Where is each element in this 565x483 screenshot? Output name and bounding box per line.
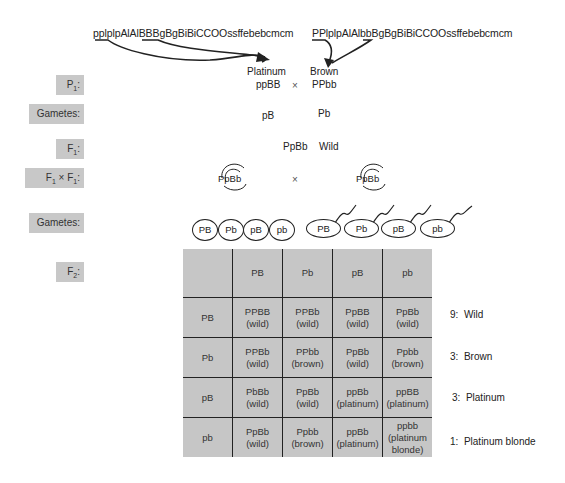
stage-label-gametes-1: Gametes: bbox=[29, 104, 84, 124]
row-header: pb bbox=[183, 418, 233, 458]
left-arrow-b bbox=[142, 40, 265, 62]
table-row: PB PPBB(wild) PPBb(wild) PpBB(wild) PpBb… bbox=[183, 298, 432, 338]
sperm-gamete: PB bbox=[306, 219, 341, 238]
punnett-cell: Ppbb(brown) bbox=[283, 418, 333, 458]
right-arrow-b bbox=[332, 40, 371, 63]
egg-gamete: PB bbox=[192, 219, 218, 241]
column-header: PB bbox=[233, 249, 283, 298]
header-row: PB Pb pB pb bbox=[183, 249, 432, 298]
f1-cross-right: PpBb bbox=[356, 173, 379, 184]
sperm-gamete: Pb bbox=[344, 219, 379, 238]
ratio-wild: 9: Wild bbox=[450, 309, 483, 320]
p1-left-phenotype: Platinum bbox=[247, 66, 286, 77]
stage-label-f1: F1: bbox=[56, 139, 84, 159]
punnett-cell: PbBb(wild) bbox=[233, 378, 283, 418]
egg-gamete: pB bbox=[243, 219, 269, 241]
f1-phenotype: Wild bbox=[319, 141, 338, 152]
punnett-cell: PPBb(wild) bbox=[233, 338, 283, 378]
corner-cell bbox=[183, 249, 233, 298]
egg-gamete: pb bbox=[269, 219, 295, 241]
gamete-1-right: Pb bbox=[318, 108, 330, 119]
punnett-square: PB Pb pB pb PB PPBB(wild) PPBb(wild) PpB… bbox=[183, 249, 432, 457]
stage-label-gametes-2: Gametes: bbox=[29, 213, 84, 233]
right-arrow-p bbox=[312, 40, 331, 62]
column-header: pb bbox=[383, 249, 433, 298]
punnett-cell: ppBb(platinum) bbox=[333, 418, 383, 458]
punnett-cell: ppbb(platinumblonde) bbox=[383, 418, 433, 458]
left-arrow-p bbox=[95, 40, 265, 60]
p1-left-genotype: ppBB bbox=[256, 79, 280, 90]
ratio-brown: 3: Brown bbox=[450, 351, 492, 362]
row-header: Pb bbox=[183, 338, 233, 378]
f1-cross-left: PpBb bbox=[218, 173, 241, 184]
ratio-platinum-blonde: 1: Platinum blonde bbox=[450, 436, 536, 447]
table-row: Pb PPBb(wild) PPbb(brown) PpBb(wild) Ppb… bbox=[183, 338, 432, 378]
stage-label-p1: P1: bbox=[56, 75, 84, 95]
ratio-platinum: 3: Platinum bbox=[452, 392, 505, 403]
punnett-cell: PpBB(wild) bbox=[333, 298, 383, 338]
gamete-1-left: pB bbox=[262, 110, 274, 121]
punnett-cell: ppBB(platinum) bbox=[383, 378, 433, 418]
row-header: PB bbox=[183, 298, 233, 338]
p1-right-genotype: PPbb bbox=[312, 79, 336, 90]
column-header: pB bbox=[333, 249, 383, 298]
stage-label-f2: F2: bbox=[56, 262, 84, 282]
stage-label-f1-cross: F1 × F1: bbox=[25, 168, 84, 188]
table-row: pB PbBb(wild) PpBb(wild) ppBb(platinum) … bbox=[183, 378, 432, 418]
punnett-cell: PpBb(wild) bbox=[283, 378, 333, 418]
sperm-gamete: pB bbox=[381, 219, 416, 238]
punnett-cell: PpBb(wild) bbox=[383, 298, 433, 338]
punnett-cell: Ppbb(brown) bbox=[383, 338, 433, 378]
punnett-cell: PpBb(wild) bbox=[333, 338, 383, 378]
row-header: pB bbox=[183, 378, 233, 418]
punnett-cell: ppBb(platinum) bbox=[333, 378, 383, 418]
punnett-cell: PPBB(wild) bbox=[233, 298, 283, 338]
column-header: Pb bbox=[283, 249, 333, 298]
p1-right-phenotype: Brown bbox=[310, 66, 338, 77]
punnett-cell: PpBb(wild) bbox=[233, 418, 283, 458]
punnett-cell: PPBb(wild) bbox=[283, 298, 333, 338]
table-row: pb PpBb(wild) Ppbb(brown) ppBb(platinum)… bbox=[183, 418, 432, 458]
egg-gamete: Pb bbox=[218, 219, 244, 241]
f1-cross-symbol: × bbox=[292, 174, 298, 185]
f1-genotype: PpBb bbox=[283, 141, 307, 152]
punnett-cell: PPbb(brown) bbox=[283, 338, 333, 378]
p1-cross-symbol: × bbox=[292, 80, 298, 91]
sperm-gamete: pb bbox=[420, 219, 455, 238]
